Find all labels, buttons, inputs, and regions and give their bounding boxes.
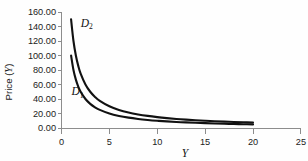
demand-curve-d2-label: D2	[80, 17, 93, 32]
y-tick-label-40: 40.00	[33, 94, 56, 104]
demand-curve-d1-label-subscript: 1	[80, 91, 84, 100]
x-tick-label-20: 20	[248, 137, 258, 147]
demand-curve-d1-label: D1	[71, 85, 84, 100]
x-tick-label-0: 0	[59, 137, 64, 147]
y-tick-label-0: 0.00	[38, 123, 56, 133]
y-tick-label-20: 20.00	[33, 109, 56, 119]
y-tick-label-80: 80.00	[33, 65, 56, 75]
y-tick-label-100: 100.00	[28, 51, 56, 61]
x-tick-label-15: 15	[200, 137, 210, 147]
x-tick-label-5: 5	[107, 137, 112, 147]
chart-plot-area: Price (Y) 160.00 140.00 120.00 100.00 80…	[0, 0, 308, 161]
demand-curve-chart: Price (Y) 160.00 140.00 120.00 100.00 80…	[0, 0, 308, 161]
x-axis-title: Y	[182, 147, 190, 159]
y-axis-title-suffix: )	[3, 64, 14, 67]
y-tick-label-160: 160.00	[28, 7, 56, 17]
demand-curve-d1	[71, 56, 253, 125]
x-tick-label-10: 10	[152, 137, 162, 147]
y-tick-label-140: 140.00	[28, 22, 56, 32]
y-axis-title-prefix: Price (	[3, 72, 14, 101]
y-tick-label-60: 60.00	[33, 80, 56, 90]
y-tick-label-120: 120.00	[28, 36, 56, 46]
y-axis-title: Price (Y)	[3, 64, 14, 101]
x-tick-label-25: 25	[296, 137, 306, 147]
demand-curve-d2	[71, 19, 253, 122]
demand-curve-d2-label-subscript: 2	[89, 22, 93, 31]
